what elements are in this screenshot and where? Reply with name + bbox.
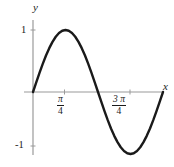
y-tick-label-negative-one: -1 (15, 140, 24, 151)
sine-curve-figure: y x 1 -1 π 4 3 π 4 (0, 0, 174, 167)
fraction-numerator: 3 π (112, 95, 126, 106)
axis-lines (24, 20, 162, 155)
x-axis-title: x (163, 81, 168, 92)
fraction-numerator: π (57, 95, 64, 106)
fraction-denominator: 4 (58, 106, 63, 116)
fraction-denominator: 4 (117, 106, 122, 116)
y-axis-title: y (33, 2, 38, 13)
x-tick-label-pi-over-4: π 4 (57, 95, 64, 117)
y-tick-label-positive-one: 1 (21, 25, 26, 36)
x-tick-label-3pi-over-4: 3 π 4 (112, 95, 126, 117)
